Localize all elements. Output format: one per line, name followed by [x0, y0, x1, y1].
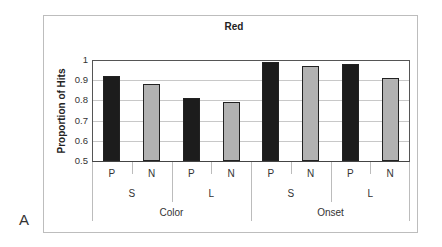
- x-category-label-level3: Onset: [251, 207, 410, 218]
- gridline: [93, 121, 409, 122]
- gridline: [93, 80, 409, 81]
- x-category-label-level1: N: [370, 168, 410, 179]
- bar-color-l-n: [223, 102, 240, 161]
- bar-onset-s-p: [262, 62, 279, 161]
- x-category-label-level2: L: [331, 188, 411, 199]
- x-category-label-level3: Color: [92, 207, 251, 218]
- bar-color-l-p: [183, 98, 200, 161]
- x-category-label-level1: P: [92, 168, 132, 179]
- y-tick-label: 0.5: [58, 155, 88, 166]
- y-tick-label: 0.8: [58, 94, 88, 105]
- x-category-label-level1: P: [331, 168, 371, 179]
- bar-onset-s-n: [302, 66, 319, 161]
- x-category-label-level1: N: [291, 168, 331, 179]
- x-category-label-level2: S: [92, 188, 172, 199]
- gridline: [93, 100, 409, 101]
- y-tick-label: 0.7: [58, 115, 88, 126]
- bar-color-s-p: [103, 76, 120, 161]
- x-category-label-level1: N: [211, 168, 251, 179]
- bar-color-s-n: [143, 84, 160, 161]
- y-tick-label: 1: [58, 54, 88, 65]
- plot-area: [92, 60, 410, 162]
- chart-title: Red: [200, 21, 268, 32]
- gridline: [93, 141, 409, 142]
- x-category-label-level2: S: [251, 188, 331, 199]
- x-category-label-level2: L: [172, 188, 252, 199]
- bar-onset-l-n: [382, 78, 399, 161]
- x-category-label-level1: P: [172, 168, 212, 179]
- x-category-label-level1: P: [251, 168, 291, 179]
- panel-label: A: [19, 211, 29, 228]
- bar-onset-l-p: [342, 64, 359, 161]
- y-tick-label: 0.9: [58, 74, 88, 85]
- x-category-label-level1: N: [132, 168, 172, 179]
- y-tick-label: 0.6: [58, 135, 88, 146]
